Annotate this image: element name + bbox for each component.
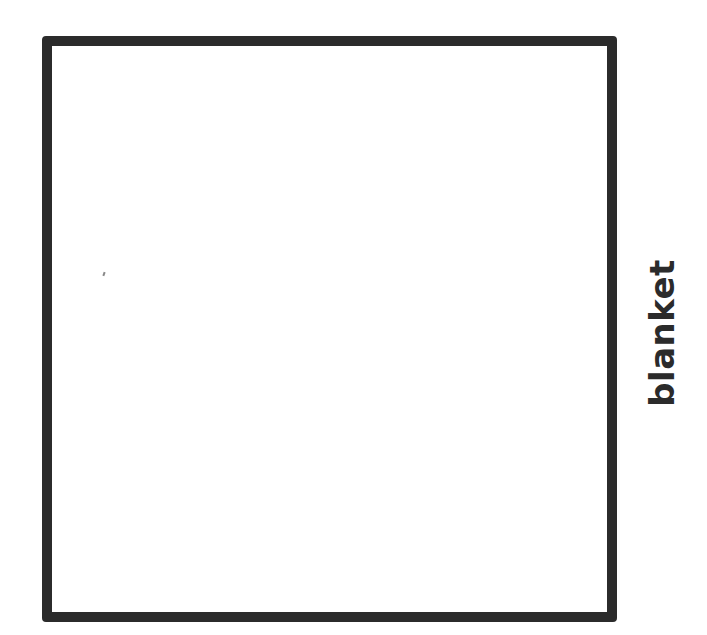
- blanket-label: blanket: [642, 259, 682, 407]
- blanket-square-outline: [42, 36, 617, 622]
